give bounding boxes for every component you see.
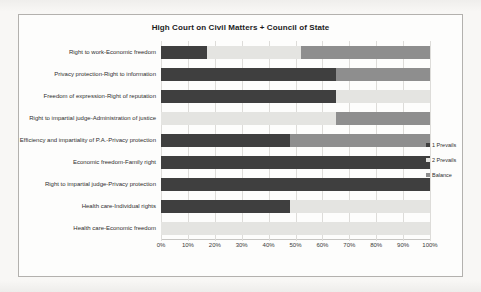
bar-track <box>161 46 430 59</box>
legend-label-2-prevails: 2 Prevails <box>432 157 456 163</box>
bar-row: Health care-Individual rights <box>19 195 462 217</box>
legend-item-balance: Balance <box>426 167 460 182</box>
x-tick-label: 40% <box>263 242 275 248</box>
bar-segment <box>336 68 430 81</box>
bar-segment <box>336 112 430 125</box>
bar-row: Right to work-Economic freedom <box>19 41 462 63</box>
bar-segment <box>161 222 430 235</box>
bar-segment <box>207 46 301 59</box>
bar-segment <box>336 90 430 103</box>
bar-track <box>161 90 430 103</box>
bar-segment <box>161 178 430 191</box>
bar-track <box>161 156 430 169</box>
x-tick-label: 80% <box>370 242 382 248</box>
figure-page: High Court on Civil Matters + Council of… <box>0 0 481 292</box>
bar-row: Health care-Economic freedom <box>19 217 462 239</box>
bar-segment <box>161 68 336 81</box>
bar-segment <box>301 46 430 59</box>
chart-container: High Court on Civil Matters + Council of… <box>18 14 463 277</box>
category-label: Economic freedom-Family right <box>19 159 161 165</box>
bar-segment <box>290 200 430 213</box>
bar-track <box>161 112 430 125</box>
bar-segment <box>290 134 430 147</box>
bar-row: Right to impartial judge-Privacy protect… <box>19 173 462 195</box>
category-label: Right to impartial judge-Administration … <box>19 115 161 121</box>
bar-track <box>161 134 430 147</box>
bar-row: Economic freedom-Family right <box>19 151 462 173</box>
bar-segment <box>161 112 336 125</box>
category-label: Right to work-Economic freedom <box>19 49 161 55</box>
chart-title: High Court on Civil Matters + Council of… <box>19 15 462 32</box>
legend-swatch-1-prevails-icon <box>426 143 430 147</box>
x-tick-label: 30% <box>236 242 248 248</box>
x-tick-label: 50% <box>289 242 301 248</box>
legend-item-2-prevails: 2 Prevails <box>426 152 460 167</box>
category-label: Right to impartial judge-Privacy protect… <box>19 181 161 187</box>
legend-label-1-prevails: 1 Prevails <box>432 142 456 148</box>
legend: 1 Prevails 2 Prevails Balance <box>426 137 460 182</box>
category-label: Health care-Individual rights <box>19 203 161 209</box>
category-label: Privacy protection-Right to information <box>19 71 161 77</box>
x-tick-label: 70% <box>343 242 355 248</box>
x-tick-label: 10% <box>182 242 194 248</box>
bar-segment <box>161 90 336 103</box>
x-tick-label: 100% <box>422 242 437 248</box>
x-tick-label: 0% <box>157 242 166 248</box>
x-tick-label: 90% <box>397 242 409 248</box>
bar-track <box>161 68 430 81</box>
bar-segment <box>161 156 430 169</box>
plot-rows: Right to work-Economic freedomPrivacy pr… <box>19 41 462 239</box>
legend-swatch-2-prevails-icon <box>426 158 430 162</box>
bar-row: Privacy protection-Right to information <box>19 63 462 85</box>
legend-label-balance: Balance <box>432 172 452 178</box>
x-tick-label: 60% <box>316 242 328 248</box>
bar-segment <box>161 46 207 59</box>
bar-row: Freedom of expression-Right of reputatio… <box>19 85 462 107</box>
bar-track <box>161 178 430 191</box>
bar-row: Efficiency and impartiality of P.A.-Priv… <box>19 129 462 151</box>
bar-track <box>161 200 430 213</box>
category-label: Freedom of expression-Right of reputatio… <box>19 93 161 99</box>
bar-segment <box>161 134 290 147</box>
x-tick-label: 20% <box>209 242 221 248</box>
bar-row: Right to impartial judge-Administration … <box>19 107 462 129</box>
category-label: Health care-Economic freedom <box>19 225 161 231</box>
legend-item-1-prevails: 1 Prevails <box>426 137 460 152</box>
legend-swatch-balance-icon <box>426 173 430 177</box>
bar-track <box>161 222 430 235</box>
category-label: Efficiency and impartiality of P.A.-Priv… <box>19 137 161 143</box>
bar-segment <box>161 200 290 213</box>
plot-area: Right to work-Economic freedomPrivacy pr… <box>19 41 462 251</box>
